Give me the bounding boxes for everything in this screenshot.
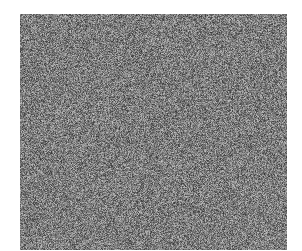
noise-panel [20,14,287,250]
noise-canvas [20,14,287,250]
image-stage [0,0,302,251]
